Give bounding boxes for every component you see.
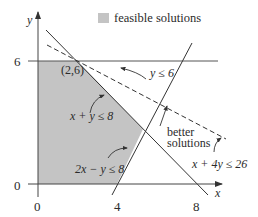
better-label-line2: solutions <box>167 137 210 149</box>
legend-label: feasible solutions <box>114 12 201 25</box>
y-axis-label: y <box>27 14 32 26</box>
arrow-better-pointer <box>160 106 167 126</box>
x-tick-8: 8 <box>193 200 200 213</box>
legend-swatch <box>98 13 109 23</box>
objective-label: x + 4y ≤ 26 <box>192 158 247 170</box>
x-tick-4: 4 <box>114 200 121 213</box>
x-tick-0: 0 <box>34 200 41 213</box>
arrow-objective-pointer <box>214 138 221 152</box>
constraint-y-le-6: y ≤ 6 <box>150 67 174 79</box>
arrow-y6-pointer <box>121 68 146 79</box>
y-tick-6: 6 <box>14 55 21 68</box>
y-tick-0: 0 <box>14 179 21 192</box>
x-axis-label: x <box>215 187 220 199</box>
constraint-x-plus-y-le-8: x + y ≤ 8 <box>70 110 113 122</box>
diagram-canvas <box>0 0 258 217</box>
lp-diagram: feasible solutions y x 6 0 0 4 8 (2,6) y… <box>0 0 258 217</box>
constraint-2x-minus-y-le-8: 2x − y ≤ 8 <box>75 163 124 175</box>
corner-point-label: (2,6) <box>61 64 84 76</box>
